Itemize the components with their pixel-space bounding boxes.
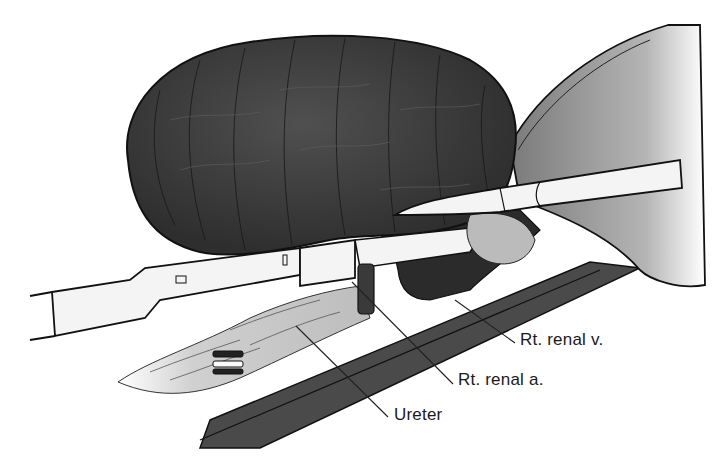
renal-artery xyxy=(358,264,374,314)
liver xyxy=(510,25,705,286)
label-renal-artery: Rt. renal a. xyxy=(458,370,544,390)
label-renal-vein: Rt. renal v. xyxy=(520,330,603,350)
surgical-illustration xyxy=(0,0,718,461)
label-ureter: Ureter xyxy=(394,405,442,425)
ureter-clips xyxy=(213,351,243,374)
kidney xyxy=(127,36,516,255)
